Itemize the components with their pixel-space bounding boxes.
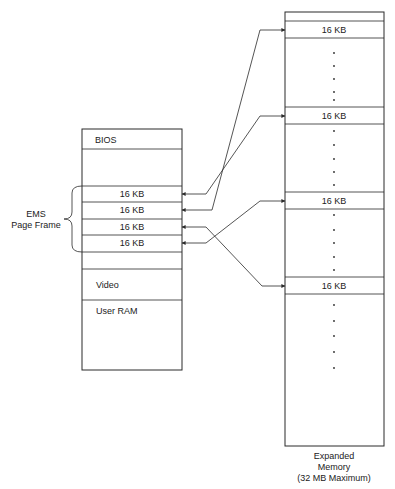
expanded-caption-line1: Expanded [314,451,355,461]
frame-slot-1-label: 16 KB [120,189,145,199]
expanded-caption-line2: Memory [318,462,351,472]
expanded-page-2-label: 16 KB [322,111,347,121]
page-frame-brace: EMS Page Frame [11,186,82,252]
video-label: Video [96,280,119,290]
expanded-page-3-label: 16 KB [322,196,347,206]
frame-slot-4-label: 16 KB [120,238,145,248]
expanded-page-1-label: 16 KB [322,25,347,35]
user-ram-label: User RAM [96,306,138,316]
mapping-arrows [182,30,285,286]
arrow-slot2-page1-right [212,30,285,210]
arrow-slot4-page3-right [206,201,285,243]
frame-slot-3-label: 16 KB [120,222,145,232]
ems-diagram: BIOS 16 KB 16 KB 16 KB 16 KB Video User … [0,0,395,489]
ems-label: EMS [26,209,46,219]
ellipsis-dots [333,52,335,369]
page-frame-label: Page Frame [11,220,61,230]
expanded-page-4-label: 16 KB [322,281,347,291]
expanded-caption-line3: (32 MB Maximum) [297,473,371,483]
frame-slot-2-label: 16 KB [120,205,145,215]
conventional-memory-box: BIOS 16 KB 16 KB 16 KB 16 KB Video User … [82,129,182,370]
arrow-slot3-page4-right [206,227,285,286]
bios-label: BIOS [95,135,117,145]
arrow-slot1-page2-right [206,116,285,194]
expanded-memory-box: 16 KB 16 KB 16 KB 16 KB Expanded Memory … [285,12,384,483]
